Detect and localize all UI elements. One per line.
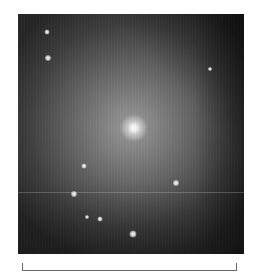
vignette-shading — [18, 14, 244, 254]
star — [98, 217, 103, 222]
star — [45, 30, 50, 35]
star — [82, 164, 87, 169]
figure — [0, 0, 257, 280]
star — [85, 215, 89, 219]
scale-bar — [22, 263, 237, 271]
star — [130, 231, 137, 238]
star — [208, 67, 212, 71]
scanline-texture — [18, 14, 244, 254]
star — [71, 191, 77, 197]
star — [173, 180, 179, 186]
horizontal-artifact-line — [18, 192, 244, 193]
star — [45, 55, 51, 61]
galaxy-image — [18, 14, 244, 254]
